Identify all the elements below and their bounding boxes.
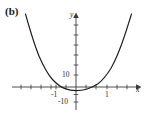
y-tick-label-10: 10 — [62, 71, 70, 79]
y-axis-label: y — [70, 11, 73, 19]
plot-curve — [26, 14, 132, 91]
x-axis-group — [12, 84, 142, 90]
figure-panel: (b) — [0, 0, 146, 116]
y-axis-group — [73, 13, 79, 111]
x-tick-label-neg1: -1 — [51, 91, 57, 99]
y-axis-arrowhead — [73, 13, 79, 19]
x-tick-label-1: 1 — [105, 91, 109, 99]
x-axis-label: x — [136, 86, 139, 94]
y-tick-label-neg10: -10 — [58, 98, 68, 106]
